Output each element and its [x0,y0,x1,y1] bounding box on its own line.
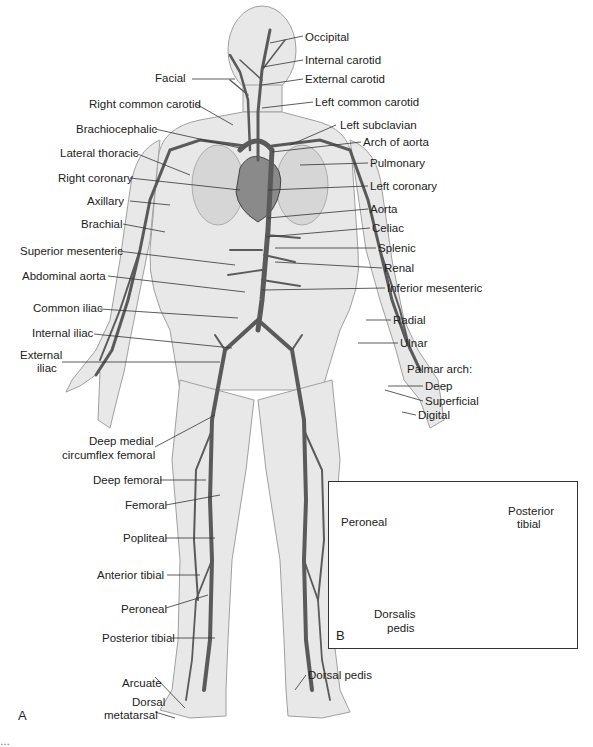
artery-label: Left subclavian [340,119,417,132]
artery-label: Deep [425,380,453,393]
artery-label: Deep femoral [93,474,162,487]
artery-label: Common iliac [33,302,103,315]
artery-label: metatarsal [104,709,158,722]
inset-artery-label: Posterior [508,505,554,518]
panel-label-a: A [18,708,27,723]
artery-label: Ulnar [400,337,427,350]
artery-label: Aorta [370,203,398,216]
inset-artery-label: pedis [387,622,415,635]
artery-label: Peroneal [121,603,167,616]
artery-label: Radial [393,314,426,327]
artery-label: Right common carotid [89,98,201,111]
artery-label: Axillary [87,195,124,208]
artery-label: Inferior mesenteric [387,282,482,295]
artery-label: Digital [418,409,450,422]
artery-label: Internal carotid [305,54,381,67]
artery-label: Pulmonary [370,157,425,170]
inset-artery-label: Peroneal [341,516,387,529]
artery-label: Anterior tibial [97,569,164,582]
artery-label: Facial [155,72,186,85]
artery-label: Left coronary [370,180,437,193]
artery-label: Internal iliac [32,327,93,340]
artery-label: Splenic [378,242,416,255]
artery-label: Dorsal [132,696,165,709]
artery-label: Abdominal aorta [22,270,106,283]
artery-label: External carotid [305,73,385,86]
artery-label: Left common carotid [315,96,419,109]
artery-label: Superior mesenteric [20,245,123,258]
inset-artery-label: tibial [517,518,541,531]
artery-label: Femoral [125,499,167,512]
artery-label: Brachiocephalic [76,123,157,136]
artery-label: External [20,349,62,362]
artery-label: Occipital [305,31,349,44]
artery-label: Palmar arch: [407,363,472,376]
artery-label: Deep medial [89,435,154,448]
panel-label-b: B [336,628,345,643]
artery-label: Celiac [372,222,404,235]
artery-label: iliac [37,362,57,375]
artery-label: Arcuate [122,677,162,690]
artery-label: Brachial [81,218,123,231]
figure-caption-fragment: … [0,736,10,747]
artery-label: Popliteal [123,532,167,545]
inset-artery-label: Dorsalis [374,608,416,621]
artery-label: Arch of aorta [363,136,429,149]
artery-label: Right coronary [58,172,133,185]
artery-label: Dorsal pedis [308,669,372,682]
artery-label: Posterior tibial [102,632,175,645]
artery-label: Lateral thoracic [60,147,139,160]
artery-label: circumflex femoral [62,449,155,462]
artery-label: Superficial [425,395,479,408]
artery-label: Renal [384,262,414,275]
